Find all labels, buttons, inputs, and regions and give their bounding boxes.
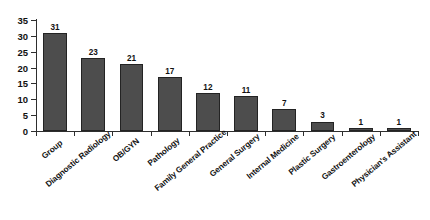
bar-value-label: 11: [242, 86, 251, 95]
category-label: Physician's Assistant: [350, 129, 418, 188]
x-axis-tick: [380, 131, 381, 136]
category-label: Group: [40, 138, 64, 160]
bar: [81, 58, 105, 131]
y-axis-tick-label: 20: [0, 62, 28, 73]
bar: [272, 109, 296, 131]
y-axis-tick: [31, 36, 36, 37]
bar: [311, 122, 335, 132]
y-axis-tick-label: 35: [0, 15, 28, 26]
x-axis-tick: [303, 131, 304, 136]
bar-value-label: 31: [51, 23, 60, 32]
y-axis-tick: [31, 115, 36, 116]
y-axis-tick-label: 5: [0, 110, 28, 121]
y-axis-tick: [31, 20, 36, 21]
x-axis-tick: [74, 131, 75, 136]
y-axis-tick-label: 10: [0, 94, 28, 105]
y-axis-tick-label: 0: [0, 126, 28, 137]
x-axis-tick: [151, 131, 152, 136]
category-label: OB/GYN: [111, 137, 141, 164]
y-axis-tick-label: 25: [0, 46, 28, 57]
x-axis-tick: [342, 131, 343, 136]
bar-value-label: 21: [127, 54, 136, 63]
bar: [234, 96, 258, 131]
x-axis-tick: [189, 131, 190, 136]
category-label: Diagnostic Radiology: [44, 129, 112, 188]
x-axis-tick: [36, 131, 37, 136]
y-axis-tick-label: 15: [0, 78, 28, 89]
bar: [196, 93, 220, 131]
bar-value-label: 3: [320, 111, 325, 120]
bar-value-label: 1: [358, 118, 363, 127]
category-label: Family General Practice: [153, 128, 228, 193]
plot-area: [36, 20, 418, 131]
bar-value-label: 7: [282, 99, 287, 108]
y-axis-tick: [31, 99, 36, 100]
y-axis-tick: [31, 52, 36, 53]
y-axis-tick: [31, 68, 36, 69]
bar-value-label: 17: [165, 67, 174, 76]
x-axis-tick: [418, 131, 419, 136]
y-axis-tick-label: 30: [0, 30, 28, 41]
category-label: Pathology: [146, 136, 181, 168]
bar-chart: 05101520253035 3123211712117311 GroupDia…: [0, 0, 430, 220]
bar-value-label: 12: [203, 83, 212, 92]
bar: [158, 77, 182, 131]
bar-value-label: 1: [397, 118, 402, 127]
x-axis-tick: [265, 131, 266, 136]
y-axis-line: [36, 19, 37, 132]
bar: [120, 64, 144, 131]
y-axis-tick: [31, 83, 36, 84]
bar: [43, 33, 67, 131]
bar-value-label: 23: [89, 48, 98, 57]
